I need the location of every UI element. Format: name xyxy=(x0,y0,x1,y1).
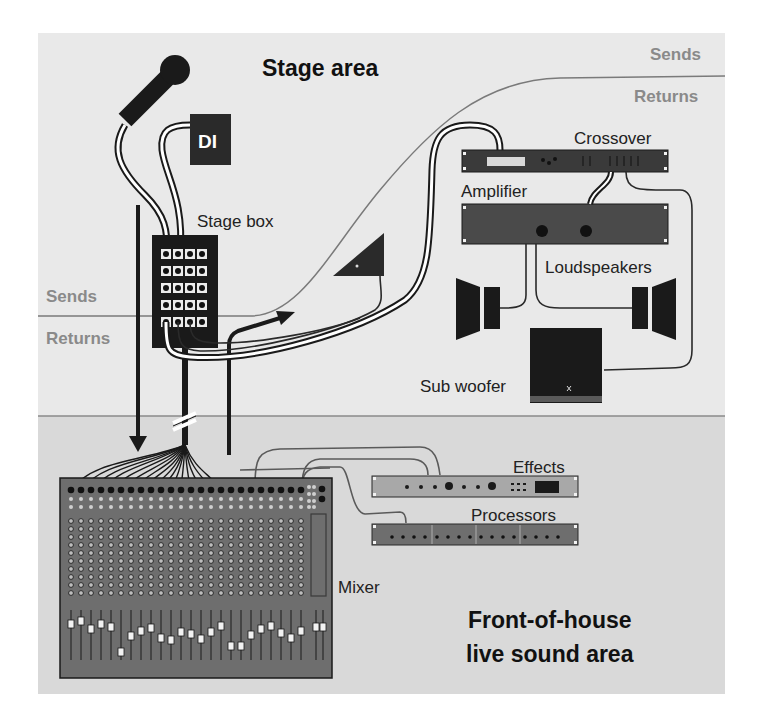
loudspeakers-label: Loudspeakers xyxy=(545,258,652,277)
crossover-label: Crossover xyxy=(574,129,652,148)
mixer-knob-grid xyxy=(66,517,306,597)
stage-box xyxy=(152,235,218,348)
mixer-console xyxy=(60,478,332,678)
left-returns-label: Returns xyxy=(46,329,110,348)
effects-unit xyxy=(372,476,578,497)
di-label: DI xyxy=(198,131,217,152)
processors-label: Processors xyxy=(471,506,556,525)
sub-woofer-label: Sub woofer xyxy=(420,377,506,396)
amplifier-label: Amplifier xyxy=(461,182,527,201)
mixer-label: Mixer xyxy=(338,578,380,597)
right-returns-label: Returns xyxy=(634,87,698,106)
live-sound-diagram: Stage area Front-of-house live sound are… xyxy=(0,0,763,721)
right-sends-label: Sends xyxy=(650,45,701,64)
left-sends-label: Sends xyxy=(46,287,97,306)
processors-unit xyxy=(372,524,578,545)
sub-woofer-icon xyxy=(530,328,602,403)
di-box: DI xyxy=(190,114,231,165)
stage-box-label: Stage box xyxy=(197,212,274,231)
foh-area-title-line1: Front-of-house xyxy=(468,607,632,633)
foh-area-title-line2: live sound area xyxy=(466,641,634,667)
effects-label: Effects xyxy=(513,458,565,477)
stage-area-title: Stage area xyxy=(262,55,379,81)
amplifier-unit xyxy=(462,204,668,244)
crossover-unit xyxy=(462,150,668,172)
